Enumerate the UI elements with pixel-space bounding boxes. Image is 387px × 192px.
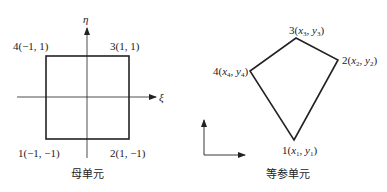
isoparametric-quad xyxy=(250,38,338,140)
node-2-coord-label: 2(x2, y2) xyxy=(342,54,377,68)
isoparametric-element-caption: 等参单元 xyxy=(266,167,310,181)
node-3-coord-label: 3(x3, y3) xyxy=(289,24,324,38)
isoparametric-element-diagram: 3(x3, y3) 2(x2, y2) 4(x4, y4) 1(x1, y1) … xyxy=(204,24,377,181)
parent-square xyxy=(46,56,129,139)
node-4-label: 4(−1, 1) xyxy=(13,40,49,53)
node-4-coord-label: 4(x4, y4) xyxy=(213,65,248,79)
node-3-label: 3(1, 1) xyxy=(110,40,140,53)
eta-axis-label: η xyxy=(83,13,88,25)
xi-axis-label: ξ xyxy=(159,91,164,104)
parent-element-diagram: η ξ 4(−1, 1) 3(1, 1) 1(−1, −1) 2(1, −1) … xyxy=(13,13,164,181)
parent-element-caption: 母单元 xyxy=(71,168,104,181)
node-2-label: 2(1, −1) xyxy=(110,147,146,160)
node-1-label: 1(−1, −1) xyxy=(18,147,60,160)
node-1-coord-label: 1(x1, y1) xyxy=(282,144,317,158)
diagram-canvas: η ξ 4(−1, 1) 3(1, 1) 1(−1, −1) 2(1, −1) … xyxy=(0,0,387,192)
